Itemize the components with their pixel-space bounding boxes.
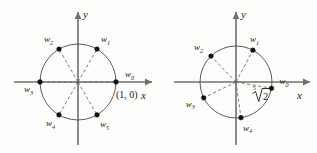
root-label-w0: w0: [125, 69, 135, 81]
root-label-w1: w1: [101, 34, 110, 46]
root-label-w4: w4: [243, 123, 252, 135]
root-label-w2: w2: [44, 34, 53, 46]
radical-index: 5: [253, 85, 256, 91]
roots-of-unity-figure: x y w0 w1 w2: [0, 0, 317, 153]
root-point: [57, 47, 62, 52]
right-root-labels: w0 w1 w2 w3 w4: [186, 34, 290, 134]
root-point: [38, 80, 43, 85]
root-point: [95, 47, 100, 52]
root-label-w3: w3: [186, 99, 195, 111]
root-point: [95, 113, 100, 118]
figure-container: x y w0 w1 w2: [0, 0, 317, 153]
root-point: [201, 95, 206, 100]
left-y-axis: [75, 12, 82, 145]
origin-coordinate-label: (1, 0): [116, 89, 138, 101]
root-label-w2: w2: [194, 42, 203, 54]
left-x-axis-label: x: [140, 89, 146, 101]
right-x-axis-label: x: [296, 89, 302, 101]
root-label-w1: w1: [250, 34, 259, 46]
right-diagram: x y w0 w1 w2 w3 w4: [174, 8, 310, 145]
root-label-w5: w5: [100, 119, 109, 131]
radical-radicand: 2: [263, 91, 268, 102]
root-point: [239, 115, 244, 120]
root-label-w0: w0: [280, 76, 290, 88]
root-label-w3: w3: [24, 84, 33, 96]
root-label-w4: w4: [46, 118, 55, 130]
right-x-axis: [174, 79, 310, 86]
root-point: [209, 54, 214, 59]
root-point: [114, 80, 119, 85]
left-diagram: x y w0 w1 w2: [14, 8, 152, 145]
right-y-axis: [233, 12, 240, 145]
root-point: [57, 113, 62, 118]
left-y-axis-label: y: [82, 8, 88, 20]
radical-label: 5 2: [253, 85, 272, 102]
right-y-axis-label: y: [240, 8, 246, 20]
root-point: [251, 48, 256, 53]
